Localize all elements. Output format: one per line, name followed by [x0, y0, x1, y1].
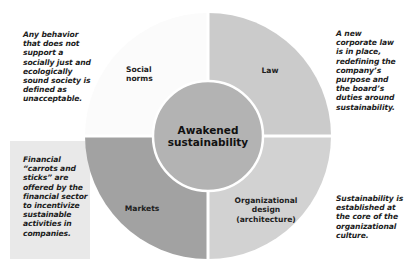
quadrant-label-social-norms: Social norms [126, 65, 182, 84]
quadrant-label-law: Law [250, 66, 290, 75]
awakened-sustainability-diagram: Awakened sustainability Social norms Law… [0, 0, 415, 274]
note-law: A new corporate law is in place, redefin… [336, 29, 414, 112]
quadrant-label-organizational-design: Organizational design (architecture) [224, 196, 308, 224]
note-social-norms: Any behavior that does not support a soc… [23, 30, 103, 104]
note-markets: Financial “carrots and sticks” are offer… [23, 155, 89, 238]
note-organizational-design: Sustainability is established at the cor… [336, 194, 414, 240]
center-title: Awakened sustainability [153, 124, 263, 148]
quadrant-label-markets: Markets [112, 204, 172, 213]
